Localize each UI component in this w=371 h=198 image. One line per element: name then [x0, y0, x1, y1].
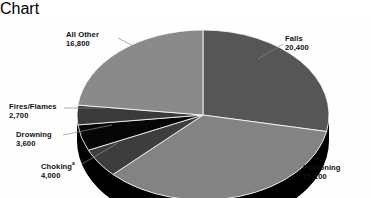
slice-label-falls: Falls 20,400 [285, 34, 309, 53]
slice-label-fires-flames: Fires/Flames 2,700 [9, 102, 57, 121]
slice-label-all-other: All Other 16,800 [66, 30, 99, 49]
slice-label-all-other-value: 16,800 [66, 39, 99, 48]
slice-label-choking-name: Choking [41, 162, 72, 171]
slice-label-drowning-value: 3,600 [16, 139, 52, 148]
slice-label-all-other-name: All Other [66, 30, 99, 39]
slice-label-choking-value: 4,000 [41, 171, 75, 180]
slice-label-choking: Chokinga 4,000 [41, 159, 75, 180]
slice-label-choking-footnote: a [72, 160, 75, 166]
slice-label-poisoning-value: 25,100 [303, 172, 341, 181]
slice-label-falls-name: Falls [285, 34, 303, 43]
slice-label-poisoning: Poisoning 25,100 [303, 163, 341, 182]
slice-label-fires-flames-value: 2,700 [9, 111, 57, 120]
slice-label-drowning-name: Drowning [16, 130, 52, 139]
pie-top-face [77, 30, 329, 198]
slice-label-falls-value: 20,400 [285, 43, 309, 52]
slice-label-drowning: Drowning 3,600 [16, 130, 52, 149]
slice-label-poisoning-name: Poisoning [303, 163, 341, 172]
slice-label-fires-flames-name: Fires/Flames [9, 102, 57, 111]
pie-chart: All Other 16,800 Falls 20,400 Poisoning … [0, 18, 371, 198]
pie-slice-falls[interactable] [203, 30, 329, 132]
